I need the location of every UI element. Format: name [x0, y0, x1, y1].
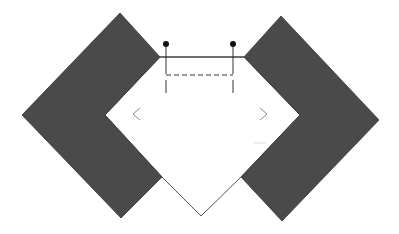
right-pin-dot-icon: [230, 41, 236, 47]
chevron-diagram: [0, 0, 399, 234]
left-pin-dot-icon: [163, 41, 169, 47]
